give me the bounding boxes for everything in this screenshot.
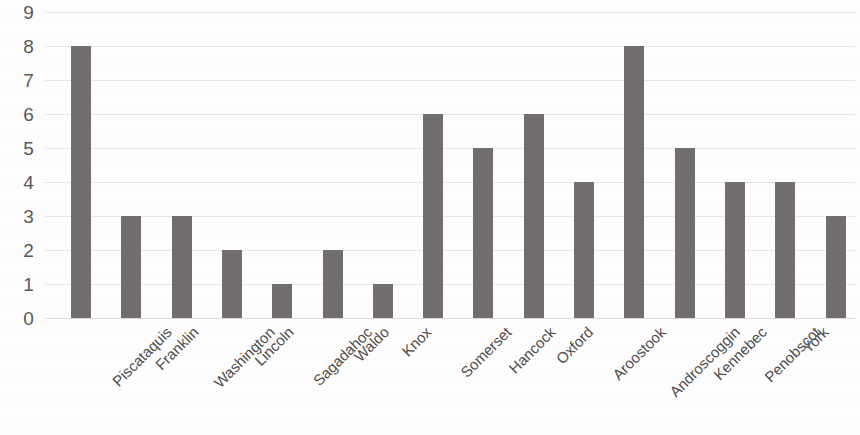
bar — [524, 114, 544, 318]
x-axis-tick-label: Knox — [399, 324, 434, 359]
x-axis-tick-label: Hancock — [506, 324, 558, 376]
y-axis-tick-label: 8 — [0, 37, 34, 56]
bar — [624, 46, 644, 318]
gridline-6 — [45, 114, 855, 115]
bar — [826, 216, 846, 318]
x-axis-tick-label: Aroostook — [610, 324, 669, 383]
gridline-9 — [45, 12, 855, 13]
y-axis-tick-label: 1 — [0, 275, 34, 294]
bar — [121, 216, 141, 318]
bar-chart: 9876543210 PiscataquisFranklinWashington… — [0, 0, 860, 435]
y-axis-tick-label: 7 — [0, 71, 34, 90]
bar — [172, 216, 192, 318]
bar — [373, 284, 393, 318]
plot-area — [45, 12, 855, 318]
y-axis-tick-label: 5 — [0, 139, 34, 158]
gridline-5 — [45, 148, 855, 149]
y-axis-tick-label: 6 — [0, 105, 34, 124]
gridline-8 — [45, 46, 855, 47]
x-axis-tick-label: Oxford — [553, 324, 596, 367]
bar — [222, 250, 242, 318]
bar — [71, 46, 91, 318]
gridline-0 — [45, 318, 855, 319]
bar — [423, 114, 443, 318]
y-axis-tick-label: 0 — [0, 309, 34, 328]
y-axis-tick-label: 2 — [0, 241, 34, 260]
x-axis-tick-label: Somerset — [458, 324, 515, 381]
bar — [775, 182, 795, 318]
y-axis-tick-label: 3 — [0, 207, 34, 226]
bar — [272, 284, 292, 318]
y-axis-tick-label: 9 — [0, 3, 34, 22]
bar — [574, 182, 594, 318]
bar — [473, 148, 493, 318]
gridline-7 — [45, 80, 855, 81]
y-axis-tick-label: 4 — [0, 173, 34, 192]
bar — [323, 250, 343, 318]
bar — [725, 182, 745, 318]
bar — [675, 148, 695, 318]
